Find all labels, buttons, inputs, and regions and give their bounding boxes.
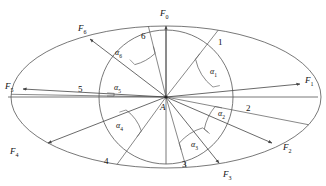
force-vector-F6 [90, 39, 166, 97]
force-label-F6: F6 [78, 24, 87, 35]
angle-tick-a6-0 [153, 47, 155, 54]
angle-arcs-group [107, 47, 222, 150]
force-label-F3: F3 [223, 170, 232, 181]
angle-tick-a3-0 [179, 143, 181, 150]
center-point-label: A [160, 103, 166, 112]
ray-label-4: 4 [104, 157, 109, 166]
angle-tick-a1-0 [213, 86, 220, 87]
ray-line-2 [166, 97, 309, 125]
force-vector-F4 [48, 97, 166, 143]
force-label-F2: F2 [283, 143, 292, 154]
diagram-svg [0, 0, 326, 186]
force-label-F0: F0 [160, 9, 169, 20]
angle-tick-a1-1 [196, 54, 200, 60]
ray-label-6: 6 [141, 32, 146, 41]
angle-label-a5: α5 [114, 84, 121, 94]
force-label-F5: F5 [5, 82, 14, 93]
force-vector-F3 [166, 97, 219, 163]
diagram-canvas: F0F1F2F3F4F5F6123456α1α2α3α4α5α6A [0, 0, 326, 186]
center-dot [164, 95, 167, 98]
force-vectors-group [23, 26, 300, 163]
ray-line-6 [148, 26, 166, 97]
angle-label-a1: α1 [210, 68, 217, 78]
ray-label-5: 5 [78, 85, 83, 94]
angle-label-a6: α6 [115, 49, 122, 59]
angle-label-a2: α2 [218, 110, 225, 120]
angle-arc-a6 [135, 53, 155, 64]
center-point-marker [164, 95, 167, 98]
angle-label-a4: α4 [116, 122, 123, 132]
angle-label-a3: α3 [191, 141, 198, 151]
angle-tick-a4-0 [119, 110, 126, 112]
ray-line-1 [166, 30, 218, 97]
ray-line-3 [166, 97, 186, 167]
angle-tick-a6-1 [130, 60, 135, 65]
ray-label-1: 1 [218, 38, 223, 47]
angle-tick-a2-1 [215, 107, 222, 108]
ray-label-3: 3 [182, 160, 187, 169]
angle-tick-a4-1 [137, 131, 141, 137]
force-label-F1: F1 [305, 76, 314, 87]
angle-arc-a4 [126, 110, 141, 131]
angle-tick-a3-1 [203, 128, 208, 132]
ray-label-2: 2 [246, 104, 251, 113]
force-label-F4: F4 [10, 147, 19, 158]
